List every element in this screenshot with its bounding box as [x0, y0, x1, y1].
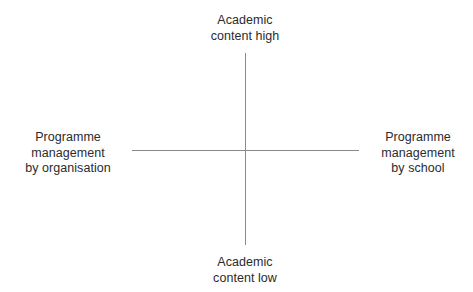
axis-label-left: Programme management by organisation: [14, 130, 122, 177]
quadrant-diagram: Academic content high Academic content l…: [0, 0, 473, 292]
horizontal-axis-line: [132, 150, 359, 151]
axis-label-bottom: Academic content low: [175, 255, 315, 286]
axis-label-top: Academic content high: [175, 13, 315, 44]
vertical-axis-line: [245, 53, 246, 245]
axis-label-right: Programme management by school: [371, 130, 465, 177]
